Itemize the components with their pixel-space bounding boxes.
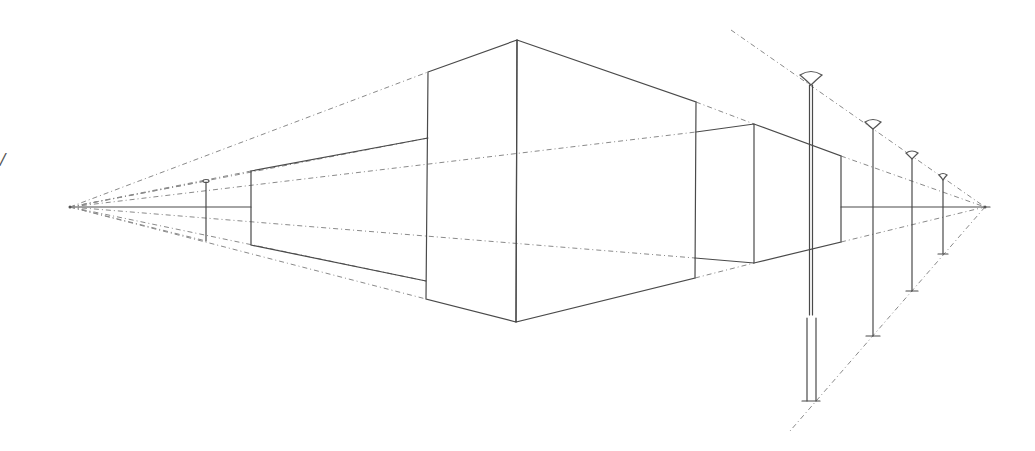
lamp-far-left [203,180,209,242]
lamp-2 [865,120,881,337]
lamp-4 [938,174,948,255]
lamp-3 [906,151,918,291]
left-vp-construction-lines [70,72,696,299]
lamp-1 [800,72,822,402]
stray-mark: / [0,150,7,169]
main-tall-building [426,40,696,322]
right-vanishing-point [984,206,987,209]
left-low-building [251,138,428,281]
right-mid-building [695,124,841,263]
lamp-head-icon [939,174,947,181]
lamp-head-icon [906,151,918,159]
lamp-head-icon [800,72,822,86]
left-vanishing-point [69,206,72,209]
lamp-head-icon [865,120,881,130]
perspective-drawing: / [0,0,1035,451]
right-vp-construction-lines [695,30,985,431]
